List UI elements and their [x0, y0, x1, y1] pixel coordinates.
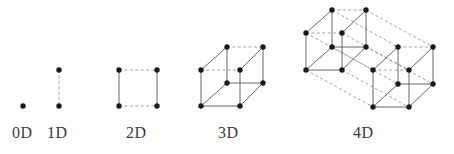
vertex — [395, 81, 400, 86]
edge-solid — [306, 10, 332, 33]
vertex — [198, 103, 203, 108]
edge-dashed — [342, 70, 409, 107]
edge-dashed — [306, 70, 373, 107]
edge-solid — [240, 47, 263, 70]
vertex — [329, 7, 334, 12]
edge-dashed — [306, 33, 373, 70]
vertex — [56, 103, 61, 108]
vertex — [224, 80, 229, 85]
edge-solid — [201, 47, 227, 70]
edge-dashed — [342, 33, 409, 70]
vertex — [303, 30, 308, 35]
panel-3d — [198, 44, 265, 108]
vertex — [430, 44, 435, 49]
panel-1d — [56, 67, 61, 108]
vertex — [116, 67, 121, 72]
label-1d: 1D — [47, 124, 68, 142]
edge-solid — [306, 47, 332, 70]
vertex — [154, 103, 159, 108]
vertex — [237, 103, 242, 108]
vertex — [339, 30, 344, 35]
label-0d: 0D — [12, 124, 33, 142]
label-2d: 2D — [126, 124, 147, 142]
vertex — [260, 80, 265, 85]
edge-solid — [342, 47, 366, 70]
vertex — [329, 44, 334, 49]
panel-0d — [20, 103, 25, 108]
label-4d: 4D — [353, 124, 374, 142]
vertex — [363, 7, 368, 12]
vertex — [406, 67, 411, 72]
vertex — [303, 67, 308, 72]
panel-4d — [303, 7, 435, 109]
vertex — [237, 67, 242, 72]
vertex — [198, 67, 203, 72]
vertex — [339, 67, 344, 72]
panel-2d — [116, 67, 159, 108]
edge-solid — [201, 83, 227, 106]
edge-solid — [373, 47, 398, 70]
vertex — [430, 81, 435, 86]
edge-solid — [240, 83, 263, 106]
vertex — [363, 44, 368, 49]
vertex — [224, 44, 229, 49]
vertex — [395, 44, 400, 49]
vertex — [56, 67, 61, 72]
vertex — [116, 103, 121, 108]
label-3d: 3D — [218, 124, 239, 142]
vertex — [406, 104, 411, 109]
edge-solid — [373, 84, 398, 107]
edge-solid — [409, 84, 433, 107]
edge-solid — [342, 10, 366, 33]
edge-dashed — [366, 10, 433, 47]
vertex — [154, 67, 159, 72]
vertex — [370, 104, 375, 109]
edge-solid — [409, 47, 433, 70]
edge-dashed — [366, 47, 433, 84]
vertex — [20, 103, 25, 108]
vertex — [370, 67, 375, 72]
vertex — [260, 44, 265, 49]
